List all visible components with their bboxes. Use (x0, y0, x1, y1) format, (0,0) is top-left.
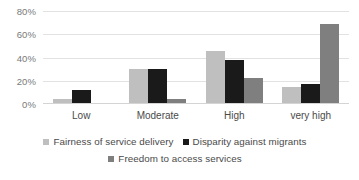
plot-area (43, 11, 349, 104)
x-axis-line (43, 103, 349, 104)
x-axis-tick-label: very high (273, 108, 350, 124)
bar[interactable] (244, 78, 263, 104)
y-axis-tick-label: 40% (17, 52, 36, 63)
bar[interactable] (225, 60, 244, 104)
y-axis-tick-label: 20% (17, 75, 36, 86)
bar[interactable] (129, 69, 148, 104)
legend-swatch-icon (108, 156, 114, 162)
bar-group (43, 11, 120, 104)
y-axis-tick-label: 0% (22, 99, 36, 110)
y-axis-tick-label: 60% (17, 29, 36, 40)
x-axis-tick-label: Moderate (120, 108, 197, 124)
legend-swatch-icon (183, 139, 189, 145)
legend-label: Fairness of service delivery (53, 136, 173, 147)
legend-item[interactable]: Freedom to access services (108, 150, 241, 167)
x-axis-tick-label: Low (43, 108, 120, 124)
legend-swatch-icon (43, 139, 49, 145)
bar-group (196, 11, 273, 104)
bar-chart: 0%20%40%60%80% LowModerateHighvery high … (0, 0, 359, 180)
legend-item[interactable]: Disparity against migrants (183, 133, 307, 150)
x-axis-tick-label: High (196, 108, 273, 124)
bar[interactable] (301, 84, 320, 104)
bar-group (273, 11, 350, 104)
bar[interactable] (320, 24, 339, 104)
bar[interactable] (72, 90, 91, 104)
chart-legend: Fairness of service deliveryDisparity ag… (0, 133, 359, 167)
bar[interactable] (206, 51, 225, 104)
y-axis-tick-label: 80% (17, 6, 36, 17)
legend-label: Disparity against migrants (193, 136, 307, 147)
legend-label: Freedom to access services (118, 153, 241, 164)
bar-group (120, 11, 197, 104)
bar[interactable] (282, 87, 301, 104)
legend-item[interactable]: Fairness of service delivery (43, 133, 173, 150)
x-axis-labels: LowModerateHighvery high (43, 108, 349, 124)
bar-groups (43, 11, 349, 104)
bar[interactable] (148, 69, 167, 104)
